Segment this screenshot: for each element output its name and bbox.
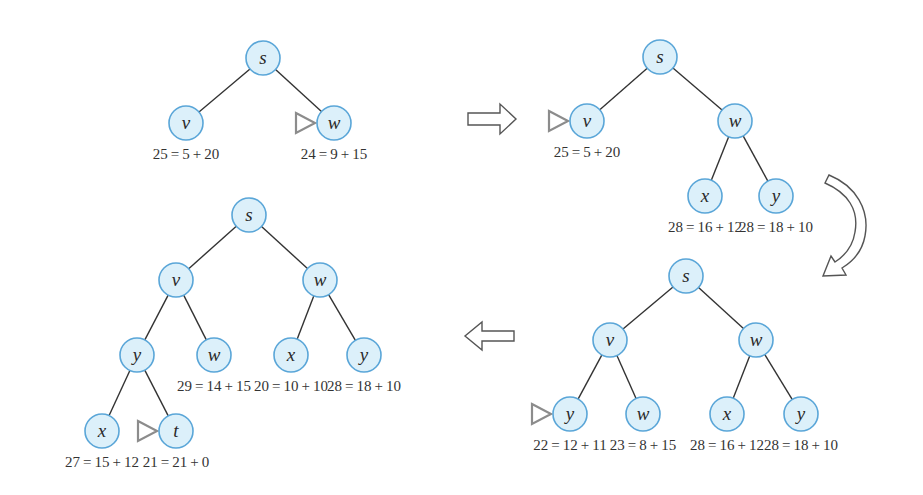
tree-edge [623, 287, 673, 329]
node-label: v [182, 112, 191, 133]
node-label: x [722, 403, 732, 424]
tree-node-w: w [739, 323, 773, 357]
current-node-marker-icon [296, 113, 315, 133]
right-arrow-icon [468, 104, 516, 134]
node-label: w [750, 329, 763, 350]
tree-node-w: w [626, 397, 660, 431]
tree-node-v: v [159, 263, 193, 297]
node-label: w [208, 344, 221, 365]
node-label: s [682, 265, 689, 286]
tree-edge [743, 136, 768, 181]
left-arrow-icon [465, 322, 514, 350]
tree-edge [297, 296, 314, 339]
tree-edge [276, 69, 322, 111]
tree-node-w: w [303, 263, 337, 297]
tree-node-y: y [120, 338, 154, 372]
tree-node-x: x [274, 338, 308, 372]
curved-down-arrow-icon [823, 175, 866, 276]
node-label: s [259, 47, 266, 68]
node-label: w [314, 269, 327, 290]
tree-edge [733, 356, 750, 398]
node-label: v [583, 110, 592, 131]
tree-node-s: s [246, 41, 280, 75]
tree-edge [329, 295, 356, 341]
tree-node-v: v [169, 106, 203, 140]
tree-edge [578, 355, 602, 399]
node-label: t [173, 420, 179, 441]
node-cost-label: 28 = 18 + 10 [739, 219, 813, 235]
tree-node-w: w [197, 338, 231, 372]
node-cost-label: 21 = 21 + 0 [143, 454, 209, 470]
tree-edge [765, 355, 792, 400]
tree-edge [184, 295, 207, 340]
tree-node-w: w [317, 106, 351, 140]
tree-node-s: s [643, 40, 677, 74]
tree-node-x: x [710, 397, 744, 431]
node-label: y [795, 403, 806, 424]
node-label: w [637, 403, 650, 424]
tree-node-y: y [347, 338, 381, 372]
tree-edge [711, 137, 728, 180]
tree-node-v: v [570, 104, 604, 138]
tree-edge [600, 68, 647, 110]
node-cost-label: 28 = 18 + 10 [327, 378, 401, 394]
current-node-marker-icon [138, 421, 157, 441]
node-cost-label: 25 = 5 + 20 [153, 146, 219, 162]
tree-node-y: y [784, 397, 818, 431]
search-tree-diagram: svwsvwxysvwywxysvwywxyxt 25 = 5 + 2024 =… [0, 0, 923, 495]
node-label: w [328, 112, 341, 133]
node-cost-label: 25 = 5 + 20 [554, 144, 620, 160]
node-label: v [172, 269, 181, 290]
node-label: x [97, 420, 107, 441]
node-label: w [729, 110, 742, 131]
current-node-marker-icon [532, 404, 551, 424]
node-cost-label: 28 = 18 + 10 [764, 437, 838, 453]
tree-node-x: x [688, 179, 722, 213]
node-cost-label: 24 = 9 + 15 [301, 146, 367, 162]
tree-node-y: y [553, 397, 587, 431]
node-cost-label: 23 = 8 + 15 [610, 437, 676, 453]
tree-edge [699, 287, 744, 328]
node-label: v [606, 329, 615, 350]
tree-node-x: x [85, 414, 119, 448]
tree-node-w: w [718, 104, 752, 138]
tree-edge [199, 69, 250, 112]
node-cost-label: 27 = 15 + 12 [65, 454, 139, 470]
node-cost-label: 28 = 16 + 12 [668, 219, 742, 235]
node-label: s [656, 46, 663, 67]
node-label: y [358, 344, 369, 365]
node-label: x [700, 185, 710, 206]
current-node-marker-icon [549, 111, 568, 131]
tree-edge [145, 370, 168, 416]
node-label: s [245, 204, 252, 225]
node-cost-label: 22 = 12 + 11 [533, 437, 606, 453]
node-label: y [131, 344, 142, 365]
node-cost-label: 29 = 14 + 15 [177, 378, 251, 394]
tree-edge [109, 370, 130, 415]
node-label: x [286, 344, 296, 365]
tree-node-s: s [232, 198, 266, 232]
node-cost-label: 20 = 10 + 10 [254, 378, 328, 394]
tree-node-t: t [159, 414, 193, 448]
tree-edge [673, 68, 722, 110]
tree-edge [145, 295, 168, 340]
tree-node-s: s [669, 259, 703, 293]
tree-edge [262, 226, 308, 268]
tree-edge [189, 226, 237, 268]
tree-node-v: v [593, 323, 627, 357]
tree-node-y: y [759, 179, 793, 213]
node-cost-label: 28 = 16 + 12 [690, 437, 764, 453]
tree-edge [617, 356, 636, 399]
node-label: y [564, 403, 575, 424]
node-label: y [770, 185, 781, 206]
